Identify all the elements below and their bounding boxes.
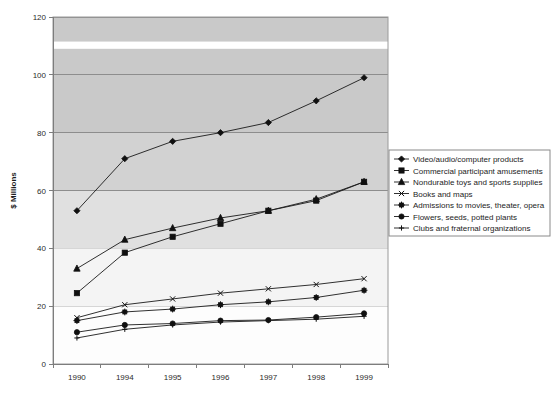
y-tick-label-60: 60: [37, 187, 46, 196]
data-point-1-3: [218, 221, 223, 226]
legend-item-2[interactable]: Nondurable toys and sports supplies: [394, 178, 542, 187]
x-axis: 1990199419951996199719981999: [53, 364, 388, 382]
legend-label-2: Nondurable toys and sports supplies: [413, 178, 542, 187]
x-tick-label-1997: 1997: [259, 373, 277, 382]
x-tick-label-1996: 1996: [212, 373, 230, 382]
data-point-4-3: [217, 301, 224, 308]
y-tick-label-20: 20: [37, 302, 46, 311]
chart-container: 020406080100120$ Millions199019941995199…: [0, 0, 551, 407]
legend-item-0[interactable]: Video/audio/computer products: [394, 155, 524, 164]
x-tick-label-1998: 1998: [307, 373, 325, 382]
data-point-1-2: [170, 234, 175, 239]
data-point-4-0: [74, 317, 81, 324]
x-tick-label-1990: 1990: [68, 373, 86, 382]
legend-item-4[interactable]: Admissions to movies, theater, opera: [394, 201, 545, 210]
x-tick-label-1994: 1994: [116, 373, 134, 382]
legend-label-4: Admissions to movies, theater, opera: [413, 201, 545, 210]
plot-highlight-stripe: [53, 42, 388, 49]
data-point-1-1: [122, 250, 127, 255]
y-tick-label-80: 80: [37, 129, 46, 138]
legend-label-3: Books and maps: [413, 190, 473, 199]
legend-item-6[interactable]: Clubs and fraternal organizations: [394, 224, 530, 233]
legend-label-0: Video/audio/computer products: [413, 155, 524, 164]
legend-marker-5: [399, 214, 404, 219]
line-chart: 020406080100120$ Millions199019941995199…: [0, 0, 551, 407]
legend-item-5[interactable]: Flowers, seeds, potted plants: [394, 213, 517, 222]
data-point-4-5: [313, 294, 320, 301]
data-point-5-0: [74, 330, 79, 335]
x-tick-label-1995: 1995: [164, 373, 182, 382]
data-point-4-6: [361, 287, 368, 294]
legend-label-5: Flowers, seeds, potted plants: [413, 213, 517, 222]
legend: Video/audio/computer productsCommercial …: [389, 150, 550, 236]
plot-band-80-100: [53, 75, 388, 133]
plot-band-20-40: [53, 248, 388, 306]
y-tick-label-120: 120: [33, 13, 47, 22]
legend-item-1[interactable]: Commercial participant amusements: [394, 167, 543, 176]
legend-marker-4: [398, 202, 405, 209]
legend-marker-1: [399, 168, 404, 173]
data-point-1-0: [74, 291, 79, 296]
y-axis-title: $ Millions: [9, 172, 18, 209]
legend-label-6: Clubs and fraternal organizations: [413, 224, 530, 233]
y-tick-label-100: 100: [33, 71, 47, 80]
x-tick-label-1999: 1999: [355, 373, 373, 382]
data-point-4-1: [121, 309, 128, 316]
data-point-4-2: [169, 306, 176, 313]
data-point-4-4: [265, 298, 272, 305]
plot-band-0-20: [53, 306, 388, 364]
y-tick-label-40: 40: [37, 244, 46, 253]
y-axis: 020406080100120: [33, 13, 53, 369]
y-tick-label-0: 0: [42, 360, 47, 369]
legend-label-1: Commercial participant amusements: [413, 167, 543, 176]
